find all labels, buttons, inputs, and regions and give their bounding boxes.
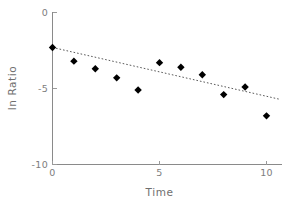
data-point <box>134 86 141 93</box>
data-point <box>92 65 99 72</box>
x-tick-labels: 0 5 10 <box>49 167 273 178</box>
y-axis-title: ln Ratio <box>6 66 18 111</box>
plot-canvas: 0 -5 -10 0 5 10 Time ln Ratio <box>0 0 286 203</box>
data-point <box>199 71 206 78</box>
data-point <box>113 74 120 81</box>
data-point <box>156 59 163 66</box>
y-tick-labels: 0 -5 -10 <box>32 7 48 170</box>
data-point <box>241 83 248 90</box>
x-tick-label-0: 0 <box>49 167 55 178</box>
y-tick-label-minus5: -5 <box>38 83 48 94</box>
y-tick-label-0: 0 <box>42 7 48 18</box>
data-point <box>220 91 227 98</box>
data-point <box>70 57 77 64</box>
data-point <box>177 64 184 71</box>
data-point <box>49 44 56 51</box>
x-tick-label-10: 10 <box>260 167 273 178</box>
x-axis-title: Time <box>144 186 173 198</box>
y-axis-ticks <box>53 13 58 165</box>
y-tick-label-minus10: -10 <box>32 159 48 170</box>
x-tick-label-5: 5 <box>156 167 162 178</box>
data-point <box>263 112 270 119</box>
scatter-plot-figure: 0 -5 -10 0 5 10 Time ln Ratio <box>0 0 286 203</box>
x-axis-ticks <box>53 161 267 165</box>
data-points-layer <box>49 44 270 120</box>
trendline <box>53 47 281 99</box>
